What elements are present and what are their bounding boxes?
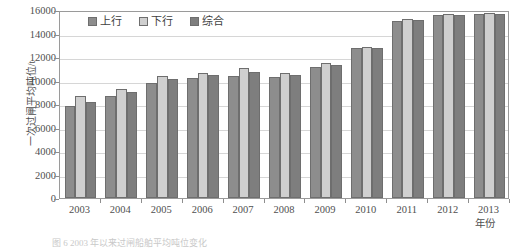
bar-2011-下行[interactable] xyxy=(402,19,413,198)
y-axis-tick-label: 4000 xyxy=(12,147,56,157)
bar-2005-上行[interactable] xyxy=(146,83,157,198)
x-axis-tick-mark xyxy=(345,199,346,203)
x-axis-tick-mark xyxy=(223,199,224,203)
chart-legend: 上行下行综合 xyxy=(88,16,224,27)
figure-caption: 图 6 2003 年以来过闸船舶平均吨位变化 xyxy=(52,238,352,248)
legend-swatch-icon xyxy=(139,17,148,26)
bar-2012-上行[interactable] xyxy=(433,15,444,198)
x-axis-tick-mark xyxy=(304,199,305,203)
y-axis-tick-mark xyxy=(54,199,59,200)
bar-2013-上行[interactable] xyxy=(474,14,485,198)
bar-2011-综合[interactable] xyxy=(413,20,424,198)
bar-group xyxy=(305,12,346,198)
bar-2003-下行[interactable] xyxy=(75,96,86,198)
legend-label: 综合 xyxy=(202,16,224,27)
bar-2007-上行[interactable] xyxy=(228,76,239,198)
bar-2011-上行[interactable] xyxy=(392,21,403,198)
y-axis-tick-label: 0 xyxy=(12,194,56,204)
bar-group xyxy=(142,12,183,198)
y-axis-tick-label: 6000 xyxy=(12,124,56,134)
bar-2006-下行[interactable] xyxy=(198,73,209,198)
y-axis-tick-label: 2000 xyxy=(12,171,56,181)
x-axis-tick-mark xyxy=(182,199,183,203)
legend-swatch-icon xyxy=(88,17,97,26)
bar-2004-综合[interactable] xyxy=(127,92,138,198)
bar-2005-综合[interactable] xyxy=(168,79,179,198)
x-axis-tick-mark xyxy=(468,199,469,203)
x-axis-title: 年份 xyxy=(455,218,515,229)
bar-2010-上行[interactable] xyxy=(351,48,362,198)
bar-2009-上行[interactable] xyxy=(310,67,321,198)
x-axis-tick-mark xyxy=(141,199,142,203)
bar-2008-下行[interactable] xyxy=(280,73,291,198)
bar-2012-综合[interactable] xyxy=(454,15,465,198)
bar-2006-上行[interactable] xyxy=(187,78,198,198)
bar-2003-综合[interactable] xyxy=(86,102,97,198)
bar-2003-上行[interactable] xyxy=(65,106,76,198)
bar-group xyxy=(428,12,469,198)
bar-group xyxy=(387,12,428,198)
bar-2006-综合[interactable] xyxy=(208,75,219,198)
legend-label: 下行 xyxy=(151,16,173,27)
bar-group xyxy=(265,12,306,198)
bar-2007-综合[interactable] xyxy=(249,72,260,198)
bar-chart-figure: 一次过闸平均吨位/t 02000400060008000100001200014… xyxy=(0,0,518,250)
y-axis-tick-label: 16000 xyxy=(12,6,56,16)
bar-group xyxy=(224,12,265,198)
x-axis-tick-label: 2013 xyxy=(459,204,518,215)
x-axis-tick-mark xyxy=(509,199,510,203)
bar-2008-上行[interactable] xyxy=(269,77,280,198)
bar-2005-下行[interactable] xyxy=(157,76,168,198)
legend-item-上行[interactable]: 上行 xyxy=(88,16,122,27)
bar-2009-综合[interactable] xyxy=(331,65,342,198)
bar-2012-下行[interactable] xyxy=(443,14,454,198)
bar-group xyxy=(469,12,509,198)
plot-area xyxy=(59,11,509,199)
bar-group xyxy=(101,12,142,198)
bar-group xyxy=(346,12,387,198)
x-axis-tick-mark xyxy=(427,199,428,203)
y-axis-tick-label: 8000 xyxy=(12,100,56,110)
legend-label: 上行 xyxy=(100,16,122,27)
x-axis-tick-mark xyxy=(100,199,101,203)
y-axis-tick-label: 10000 xyxy=(12,77,56,87)
legend-swatch-icon xyxy=(190,17,199,26)
bar-group xyxy=(183,12,224,198)
x-axis-tick-mark xyxy=(386,199,387,203)
bar-2013-综合[interactable] xyxy=(495,14,506,198)
bar-group xyxy=(60,12,101,198)
bar-2007-下行[interactable] xyxy=(239,68,250,198)
bar-2010-下行[interactable] xyxy=(362,47,373,198)
y-axis-tick-label: 14000 xyxy=(12,30,56,40)
bar-2008-综合[interactable] xyxy=(290,75,301,198)
x-axis-tick-mark xyxy=(264,199,265,203)
y-axis-tick-label: 12000 xyxy=(12,53,56,63)
bar-2010-综合[interactable] xyxy=(372,48,383,198)
bar-2013-下行[interactable] xyxy=(484,13,495,198)
bar-2004-下行[interactable] xyxy=(116,89,127,198)
legend-item-下行[interactable]: 下行 xyxy=(139,16,173,27)
bar-2009-下行[interactable] xyxy=(321,63,332,198)
legend-item-综合[interactable]: 综合 xyxy=(190,16,224,27)
bar-2004-上行[interactable] xyxy=(105,96,116,198)
